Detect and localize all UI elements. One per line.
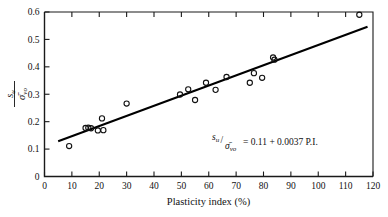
- data-point: [251, 71, 256, 76]
- y-tick-label: 0: [35, 172, 40, 182]
- data-point: [95, 128, 100, 133]
- axes-group: [45, 12, 374, 177]
- x-tick-label: 100: [311, 181, 326, 191]
- figure-container: 0102030405060708090100110120 00.10.20.30…: [0, 0, 388, 217]
- x-tick-label: 30: [122, 181, 132, 191]
- plot-frame-top-right: [45, 12, 374, 177]
- fit-equation-rhs: = 0.11 + 0.0037 P.I.: [243, 137, 318, 147]
- x-tick-label: 20: [95, 181, 105, 191]
- fit-equation-lhs-numerator: su: [212, 132, 220, 144]
- x-tick-label: 40: [149, 181, 159, 191]
- data-point: [101, 128, 106, 133]
- data-point: [213, 87, 218, 92]
- x-axis-ticks: [45, 12, 374, 177]
- y-tick-label: 0.5: [28, 35, 40, 45]
- x-axis-tick-labels: 0102030405060708090100110120: [42, 181, 380, 191]
- x-tick-label: 90: [286, 181, 296, 191]
- x-tick-label: 50: [177, 181, 187, 191]
- data-point: [260, 75, 265, 80]
- data-point: [186, 87, 191, 92]
- y-tick-label: 0.3: [28, 90, 40, 100]
- y-axis-ticks: [45, 12, 50, 149]
- y-axis-title: su σ̄vo: [4, 81, 29, 107]
- y-tick-label: 0.4: [28, 62, 40, 72]
- x-tick-label: 80: [259, 181, 269, 191]
- y-tick-label: 0.6: [28, 7, 40, 17]
- plasticity-index-scatter-chart: 0102030405060708090100110120 00.10.20.30…: [0, 0, 388, 217]
- axis-lines: [45, 12, 374, 177]
- data-point: [247, 80, 252, 85]
- y-tick-label: 0.1: [28, 144, 40, 154]
- x-tick-label: 110: [339, 181, 353, 191]
- fit-equation-lhs-denominator: σ̄vo: [225, 141, 237, 153]
- fit-equation-annotation: su / σ̄vo = 0.11 + 0.0037 P.I.: [212, 132, 318, 153]
- data-point: [192, 97, 197, 102]
- x-tick-label: 70: [231, 181, 241, 191]
- data-point: [124, 101, 129, 106]
- x-tick-label: 120: [366, 181, 381, 191]
- x-tick-label: 0: [42, 181, 47, 191]
- data-point: [203, 80, 208, 85]
- y-tick-label: 0.2: [28, 117, 40, 127]
- x-tick-label: 10: [67, 181, 77, 191]
- best-fit-line: [58, 27, 367, 142]
- fit-equation-slash: /: [221, 135, 224, 145]
- data-point: [67, 143, 72, 148]
- data-points-group: [67, 12, 362, 149]
- y-axis-tick-labels: 00.10.20.30.40.50.6: [28, 7, 40, 182]
- x-axis-title: Plasticity index (%): [167, 196, 251, 208]
- x-tick-label: 60: [204, 181, 214, 191]
- data-point: [99, 116, 104, 121]
- data-point: [357, 12, 362, 17]
